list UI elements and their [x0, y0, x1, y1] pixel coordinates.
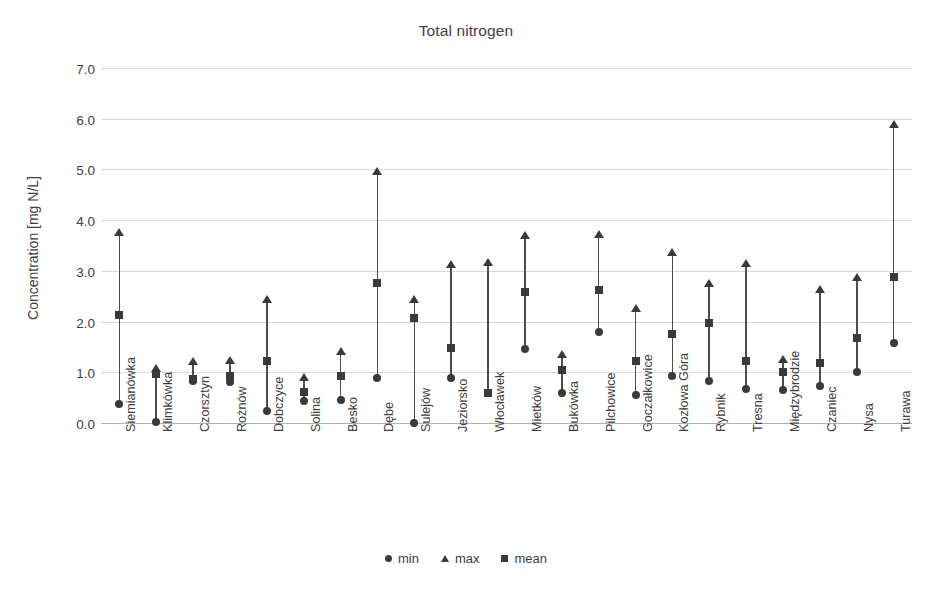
y-axis-tick-label: 5.0: [55, 163, 95, 178]
min-marker: [853, 368, 861, 376]
square-marker-icon: [501, 555, 508, 562]
gridline: [101, 220, 912, 221]
max-marker: [114, 228, 124, 236]
max-marker: [299, 373, 309, 381]
max-marker: [225, 356, 235, 364]
chart-legend: minmaxmean: [0, 551, 932, 566]
max-marker: [557, 350, 567, 358]
min-marker: [410, 419, 418, 427]
y-axis-tick-label: 6.0: [55, 112, 95, 127]
min-marker: [632, 391, 640, 399]
y-axis-ticks: 0.01.02.03.04.05.06.07.0: [51, 69, 95, 424]
range-line: [119, 235, 121, 404]
x-axis-tick-label: Tresna: [751, 393, 765, 432]
legend-label: mean: [514, 551, 547, 566]
mean-marker: [595, 286, 603, 294]
x-axis-tick-label: Pilchowice: [604, 373, 618, 433]
x-axis-tick-label: Dębe: [382, 402, 396, 432]
min-marker: [521, 345, 529, 353]
gridline: [101, 119, 912, 120]
range-line: [635, 311, 637, 395]
x-axis-tick-label: Rożnów: [235, 387, 249, 433]
min-marker: [705, 377, 713, 385]
max-marker: [631, 304, 641, 312]
x-axis-tick-label: Sulejów: [419, 388, 433, 432]
mean-marker: [632, 357, 640, 365]
mean-marker: [189, 375, 197, 383]
mean-marker: [115, 311, 123, 319]
mean-marker: [300, 388, 308, 396]
max-marker: [594, 230, 604, 238]
mean-marker: [558, 366, 566, 374]
plot-area: SiemianówkaKlimkówkaCzorsztynRożnówDobcz…: [101, 69, 912, 424]
min-marker: [337, 396, 345, 404]
max-marker: [815, 285, 825, 293]
max-marker: [483, 258, 493, 266]
x-axis-tick-label: Jeziorsko: [456, 379, 470, 432]
min-marker: [890, 339, 898, 347]
y-axis-tick-label: 1.0: [55, 366, 95, 381]
min-marker: [447, 374, 455, 382]
max-marker: [667, 248, 677, 256]
range-line: [598, 237, 600, 332]
max-marker: [409, 295, 419, 303]
mean-marker: [668, 330, 676, 338]
min-marker: [115, 400, 123, 408]
x-axis-tick-label: Nysa: [862, 403, 876, 432]
max-marker: [852, 273, 862, 281]
legend-item[interactable]: mean: [501, 551, 547, 566]
range-line: [893, 127, 895, 343]
x-axis-tick-label: Besko: [346, 397, 360, 432]
y-axis-tick-label: 2.0: [55, 315, 95, 330]
range-line: [450, 267, 452, 378]
gridline: [101, 68, 912, 69]
mean-marker: [263, 357, 271, 365]
range-line: [377, 174, 379, 378]
mean-marker: [447, 344, 455, 352]
mean-marker: [373, 279, 381, 287]
legend-item[interactable]: max: [441, 551, 480, 566]
min-marker: [300, 397, 308, 405]
max-marker: [372, 167, 382, 175]
range-line: [856, 280, 858, 372]
min-marker: [373, 374, 381, 382]
y-axis-tick-label: 7.0: [55, 62, 95, 77]
min-marker: [742, 385, 750, 393]
y-axis-label: Concentration [mg N/L]: [25, 98, 41, 398]
x-axis-tick-label: Bukówka: [567, 381, 581, 432]
mean-marker: [890, 273, 898, 281]
gridline: [101, 271, 912, 272]
range-line: [819, 292, 821, 386]
range-line: [745, 266, 747, 389]
x-axis-tick-label: Międzybrodzie: [788, 351, 802, 432]
gridline: [101, 169, 912, 170]
chart-title: Total nitrogen: [0, 22, 932, 40]
max-marker: [704, 279, 714, 287]
circle-marker-icon: [385, 555, 392, 562]
mean-marker: [226, 372, 234, 380]
max-marker: [336, 347, 346, 355]
range-line: [487, 265, 489, 393]
figure-total-nitrogen: Total nitrogen Concentration [mg N/L] 0.…: [0, 0, 932, 613]
range-line: [708, 286, 710, 381]
mean-marker: [152, 370, 160, 378]
x-axis-tick-label: Siemianówka: [124, 357, 138, 432]
gridline: [101, 322, 912, 323]
min-marker: [558, 389, 566, 397]
min-marker: [263, 407, 271, 415]
min-marker: [595, 328, 603, 336]
max-marker: [889, 120, 899, 128]
x-axis-tick-label: Goczałkowice: [641, 354, 655, 432]
x-axis-tick-label: Rybnik: [714, 394, 728, 433]
min-marker: [152, 418, 160, 426]
range-line: [155, 371, 157, 423]
legend-label: max: [455, 551, 480, 566]
mean-marker: [816, 359, 824, 367]
max-marker: [520, 231, 530, 239]
max-marker: [778, 355, 788, 363]
x-axis-tick-label: Mietków: [530, 386, 544, 432]
max-marker: [741, 259, 751, 267]
x-axis-tick-label: Klimkówka: [161, 372, 175, 432]
legend-item[interactable]: min: [385, 551, 419, 566]
legend-label: min: [398, 551, 419, 566]
